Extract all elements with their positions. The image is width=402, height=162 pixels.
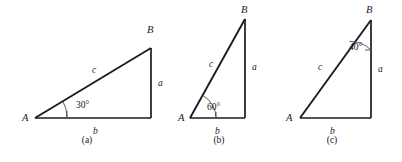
triangle-c-angle-label: 40° [349, 42, 363, 52]
triangles-diagram: A B a b c 30° (a) A B a b c 60° (b) [0, 0, 402, 162]
triangle-a-angle-arc [63, 101, 67, 118]
panel-c-caption: (c) [327, 135, 338, 146]
triangle-c-vertex-B-label: B [366, 4, 373, 15]
triangle-a-side-a-label: a [158, 78, 163, 88]
triangle-a-side-c-label: c [92, 65, 97, 75]
panel-a-caption: (a) [82, 135, 93, 146]
triangle-c-hypotenuse-c [300, 20, 371, 118]
triangle-c-side-c-label: c [318, 62, 323, 72]
triangle-panel-b: A B a b c 60° (b) [177, 4, 257, 146]
triangle-b-vertex-B-label: B [241, 4, 248, 15]
triangle-a-vertex-A-label: A [21, 112, 29, 123]
triangle-a-side-b-label: b [93, 126, 98, 136]
triangle-c-side-a-label: a [378, 64, 383, 74]
triangle-b-vertex-A-label: A [177, 112, 185, 123]
triangle-panel-a: A B a b c 30° (a) [21, 24, 163, 146]
panel-b-caption: (b) [213, 135, 224, 146]
triangle-b-side-a-label: a [252, 62, 257, 72]
triangle-c-vertex-A-label: A [285, 112, 293, 123]
triangle-a-vertex-B-label: B [147, 24, 154, 35]
triangle-a-angle-label: 30° [76, 100, 90, 110]
triangle-panel-c: A B a b c 40° (c) [285, 4, 383, 146]
geometry-figure: A B a b c 30° (a) A B a b c 60° (b) [0, 0, 402, 162]
triangle-b-side-c-label: c [209, 59, 214, 69]
triangle-b-angle-label: 60° [207, 102, 221, 112]
triangle-a-hypotenuse-c [35, 48, 151, 118]
